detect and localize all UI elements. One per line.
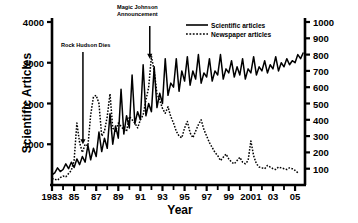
x-axis-tick-label: 05: [290, 191, 301, 202]
series-layer: [52, 53, 303, 181]
x-axis-tick-label: 85: [69, 191, 80, 202]
annotation-rock-hudson: Rock Hudson Dies: [61, 42, 110, 49]
y-axis-left-tick-label: 4000: [23, 17, 44, 28]
y-axis-right-tick-label: 100: [313, 164, 329, 175]
chart-canvas: 1000200030004000100200300400500600700800…: [0, 0, 358, 223]
y-axis-right-tick-label: 500: [313, 99, 329, 110]
annotation-magic-johnson-line2: Announcement: [117, 11, 158, 18]
annotation-magic-johnson: Magic Johnson Announcement: [117, 4, 158, 18]
x-axis-tick-label: 2001: [240, 191, 262, 202]
legend-layer: Scientific articlesNewspaper articles: [186, 22, 271, 39]
y-axis-right-tick-label: 800: [313, 50, 329, 61]
y-axis-right-tick-label: 900: [313, 33, 329, 44]
y-axis-right-tick-label: 1000: [313, 17, 334, 28]
x-axis-tick-label: 97: [201, 191, 212, 202]
y-axis-right-tick-label: 300: [313, 131, 329, 142]
y-axis-right-tick-label: 600: [313, 82, 329, 93]
x-axis-title: Year: [120, 203, 240, 217]
series-line-scientific: [52, 53, 303, 175]
chart-figure: 1000200030004000100200300400500600700800…: [0, 0, 358, 223]
arrow-rock-hudson-head: [80, 139, 85, 144]
legend-label: Newspaper articles: [211, 31, 271, 39]
x-axis-tick-label: 1983: [41, 191, 62, 202]
y-axis-right-tick-label: 400: [313, 115, 329, 126]
annotation-magic-johnson-line1: Magic Johnson: [117, 4, 158, 11]
x-axis-tick-label: 03: [268, 191, 279, 202]
y-axis-left-title: Scientific Articles: [20, 43, 34, 163]
x-axis-tick-label: 87: [91, 191, 102, 202]
x-axis-tick-label: 93: [157, 191, 168, 202]
x-axis-tick-label: 91: [135, 191, 146, 202]
y-axis-right-tick-label: 200: [313, 147, 329, 158]
y-axis-right-tick-label: 700: [313, 66, 329, 77]
legend-label: Scientific articles: [211, 22, 266, 29]
x-axis-tick-label: 95: [179, 191, 190, 202]
x-axis-tick-label: 99: [223, 191, 234, 202]
x-axis-tick-label: 89: [113, 191, 124, 202]
